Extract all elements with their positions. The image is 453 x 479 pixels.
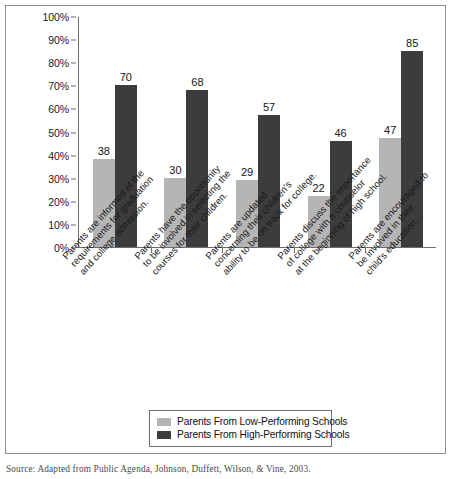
y-axis-tick-label: 30% bbox=[48, 173, 69, 185]
chart-legend: Parents From Low-Performing SchoolsParen… bbox=[149, 410, 332, 447]
bar-value-label: 85 bbox=[406, 37, 418, 49]
y-axis-tick-mark bbox=[71, 17, 76, 18]
y-axis-tick-label: 90% bbox=[48, 34, 69, 46]
bar-value-label: 46 bbox=[334, 127, 346, 139]
bar-value-label: 38 bbox=[98, 145, 110, 157]
y-axis-tick-mark bbox=[71, 109, 76, 110]
source-caption: Source: Adapted from Public Agenda, John… bbox=[6, 464, 446, 474]
bar-value-label: 29 bbox=[241, 166, 253, 178]
x-axis-category-labels: Parents are informed of therequirements … bbox=[6, 248, 447, 403]
y-axis-tick-mark bbox=[71, 132, 76, 133]
y-axis-tick-mark bbox=[71, 40, 76, 41]
legend-label: Parents From High-Performing Schools bbox=[177, 429, 349, 440]
y-axis: 0%10%20%30%40%50%60%70%80%90%100% bbox=[6, 17, 76, 248]
legend-item: Parents From Low-Performing Schools bbox=[157, 415, 324, 428]
legend-label: Parents From Low-Performing Schools bbox=[177, 416, 347, 427]
bar-value-label: 68 bbox=[191, 76, 203, 88]
y-axis-tick-mark bbox=[71, 201, 76, 202]
figure-frame: 0%10%20%30%40%50%60%70%80%90%100% 387030… bbox=[5, 5, 446, 454]
bar-value-label: 30 bbox=[169, 164, 181, 176]
y-axis-tick-mark bbox=[71, 86, 76, 87]
bar-value-label: 57 bbox=[263, 101, 275, 113]
y-axis-tick-label: 100% bbox=[43, 11, 69, 23]
y-axis-tick-mark bbox=[71, 63, 76, 64]
y-axis-tick-label: 40% bbox=[48, 150, 69, 162]
y-axis-tick-label: 10% bbox=[48, 219, 69, 231]
y-axis-tick-label: 60% bbox=[48, 103, 69, 115]
y-axis-tick-mark bbox=[71, 224, 76, 225]
y-axis-tick-label: 80% bbox=[48, 57, 69, 69]
bar-value-label: 70 bbox=[120, 71, 132, 83]
legend-swatch-low-performing bbox=[157, 418, 171, 426]
y-axis-tick-label: 70% bbox=[48, 80, 69, 92]
y-axis-tick-label: 20% bbox=[48, 196, 69, 208]
bar-value-label: 22 bbox=[312, 182, 324, 194]
legend-item: Parents From High-Performing Schools bbox=[157, 428, 324, 441]
legend-swatch-high-performing bbox=[157, 431, 171, 439]
y-axis-tick-mark bbox=[71, 155, 76, 156]
y-axis-tick-label: 50% bbox=[48, 127, 69, 139]
y-axis-tick-mark bbox=[71, 178, 76, 179]
bar-value-label: 47 bbox=[384, 124, 396, 136]
